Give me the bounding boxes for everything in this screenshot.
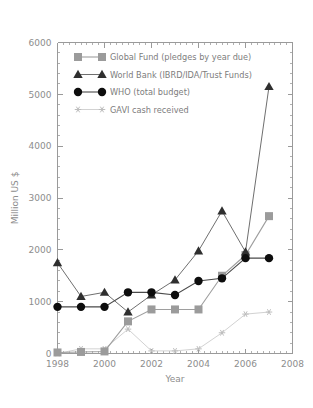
data-point: [147, 288, 155, 296]
data-point: [53, 303, 61, 311]
y-axis-title: Million US $: [10, 172, 20, 225]
data-point: [171, 305, 179, 313]
x-tick-label: 2004: [187, 359, 210, 369]
data-point: [194, 246, 203, 254]
data-point: [171, 291, 179, 299]
x-tick-label: 2006: [234, 359, 257, 369]
y-tick-label: 3000: [29, 193, 52, 203]
y-tick-label: 0: [46, 349, 52, 359]
chart-canvas: 0100020003000400050006000199820002002200…: [0, 0, 313, 408]
data-point: [241, 254, 249, 262]
data-point: [148, 305, 156, 313]
legend-square-marker: [98, 53, 106, 61]
y-tick-label: 2000: [29, 245, 52, 255]
legend-triangle-marker: [97, 70, 106, 78]
legend-circle-marker: [98, 88, 106, 96]
data-point: [195, 305, 203, 313]
data-point: [194, 277, 202, 285]
legend-circle-marker: [74, 88, 82, 96]
data-point: [54, 348, 62, 356]
legend-item: GAVI cash received: [75, 105, 189, 115]
data-point: [218, 274, 226, 282]
data-point: [217, 206, 226, 214]
data-point: [265, 212, 273, 220]
legend-asterisk-marker: [99, 107, 106, 113]
legend-label: Global Fund (pledges by year due): [110, 52, 251, 62]
series-circle: [53, 254, 273, 311]
data-point: [124, 288, 132, 296]
data-point: [123, 307, 132, 315]
data-point: [77, 348, 85, 356]
series-line: [58, 258, 270, 307]
legend-group: Global Fund (pledges by year due)World B…: [73, 52, 252, 114]
data-point: [53, 258, 62, 266]
y-tick-label: 5000: [29, 90, 52, 100]
data-point: [264, 82, 273, 90]
series-triangle: [53, 82, 274, 316]
series-line: [58, 87, 270, 312]
legend-item: World Bank (IBRD/IDA/Trust Funds): [73, 70, 252, 80]
x-tick-label: 2000: [93, 359, 116, 369]
data-point: [124, 317, 132, 325]
legend-label: World Bank (IBRD/IDA/Trust Funds): [110, 70, 252, 80]
legend-item: WHO (total budget): [74, 87, 190, 97]
series-asterisk: [54, 309, 272, 356]
data-point: [101, 347, 109, 355]
legend-label: WHO (total budget): [110, 87, 190, 97]
series-square: [54, 212, 274, 356]
data-point: [265, 254, 273, 262]
x-tick-label: 1998: [46, 359, 69, 369]
legend-triangle-marker: [73, 70, 82, 78]
chart-figure: 0100020003000400050006000199820002002200…: [0, 0, 313, 408]
x-tick-label: 2008: [281, 359, 304, 369]
data-point: [100, 303, 108, 311]
legend-item: Global Fund (pledges by year due): [74, 52, 251, 62]
x-tick-label: 2002: [140, 359, 163, 369]
y-tick-label: 1000: [29, 297, 52, 307]
y-tick-label: 4000: [29, 141, 52, 151]
legend-label: GAVI cash received: [110, 105, 189, 115]
data-point: [100, 288, 109, 296]
legend-square-marker: [74, 53, 82, 61]
data-series-group: [53, 82, 274, 357]
series-line: [58, 312, 270, 353]
data-point: [266, 309, 273, 315]
data-point: [77, 303, 85, 311]
legend-asterisk-marker: [75, 107, 82, 113]
y-tick-label: 6000: [29, 38, 52, 48]
x-axis-title: Year: [164, 374, 184, 384]
